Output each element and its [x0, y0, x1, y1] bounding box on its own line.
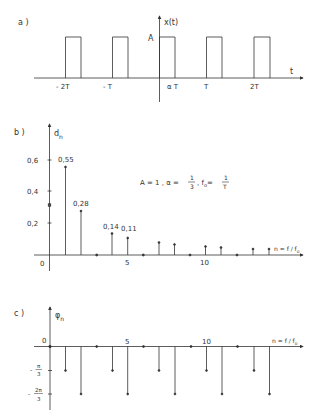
a-tick-minus-2T: - 2T [56, 83, 70, 91]
svg-text:2π: 2π [35, 387, 42, 393]
a-pulse-train [66, 37, 271, 78]
svg-text:π: π [37, 363, 41, 369]
c-ytick-minus-2pi-over-3: - 2π 3 [28, 387, 43, 402]
b-data-label-n4: 0,14 [103, 223, 119, 231]
panel-b-label: b ) [14, 128, 25, 137]
c-xtick-10: 10 [202, 338, 211, 346]
svg-text:3: 3 [37, 371, 41, 377]
a-tick-minus-T: - T [103, 83, 113, 91]
svg-text:3: 3 [37, 396, 41, 402]
b-parameter-annotation: A = 1 , α = 1 3 , fo= 1 T [140, 174, 229, 190]
b-data-label-n2: 0,28 [73, 200, 89, 208]
panel-c-label: c ) [14, 309, 24, 318]
c-x-axis-label: n = f / fo [272, 337, 298, 346]
b-x-axis-label: n = f / fo [274, 245, 300, 254]
a-amplitude-label: A [148, 34, 154, 43]
c-ytick-0: 0 [42, 337, 46, 345]
b-data-label-n5: 0,11 [121, 225, 137, 233]
svg-text:1: 1 [190, 174, 194, 181]
b-data-label-n1: 0,55 [58, 156, 74, 164]
svg-text:T: T [222, 183, 227, 190]
c-ytick-minus-pi-over-3: - π 3 [30, 363, 42, 377]
c-stems [49, 345, 271, 395]
a-y-axis-label: x(t) [164, 18, 178, 27]
b-ytick-0.4: 0,4 [27, 188, 39, 196]
b-xtick-0: 0 [40, 260, 44, 268]
panel-b-amplitude-spectrum: b ) dn 0,6 0,4 0,2 0 5 10 n = f / fo [14, 124, 303, 271]
svg-text:1: 1 [224, 174, 228, 181]
a-tick-2T: 2T [250, 83, 259, 91]
a-x-axis-label: t [290, 67, 293, 76]
svg-text:, fo=: , fo= [197, 179, 213, 188]
svg-text:3: 3 [190, 183, 194, 190]
panel-c-phase-spectrum: c ) φn 0 5 10 n = f / fo - π 3 - 2π 3 [14, 307, 303, 410]
b-xtick-10: 10 [200, 259, 209, 267]
panel-a-label: a ) [18, 18, 29, 27]
svg-text:-: - [30, 366, 32, 373]
b-ytick-0.2: 0,2 [27, 220, 38, 228]
c-xtick-5: 5 [125, 338, 129, 346]
a-tick-T: T [203, 83, 209, 91]
svg-text:-: - [28, 390, 30, 397]
a-tick-alpha-T: α T [167, 83, 179, 91]
b-xtick-5: 5 [125, 259, 129, 267]
b-y-axis-label: dn [54, 129, 63, 140]
panel-a-time-signal: a ) t x(t) A - 2T - T α T T 2T [18, 16, 303, 102]
svg-text:A = 1 , α =: A = 1 , α = [140, 179, 179, 187]
chart-figure: a ) t x(t) A - 2T - T α T T 2T b ) dn [0, 0, 315, 414]
c-y-axis-label: φn [55, 311, 64, 322]
b-ytick-0.6: 0,6 [27, 157, 39, 165]
